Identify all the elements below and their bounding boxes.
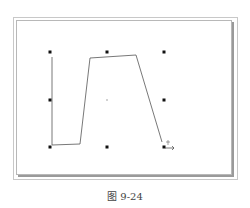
move-cursor-icon <box>165 140 174 150</box>
resize-handle[interactable] <box>106 51 109 54</box>
resize-handle[interactable] <box>49 51 52 54</box>
figure-caption: 图 9-24 <box>0 188 250 203</box>
resize-handle[interactable] <box>49 99 52 102</box>
resize-handle[interactable] <box>163 51 166 54</box>
center-point <box>106 99 108 101</box>
resize-handle[interactable] <box>49 146 52 149</box>
resize-handle[interactable] <box>163 99 166 102</box>
resize-handle[interactable] <box>106 146 109 149</box>
drawing-svg[interactable] <box>0 0 250 208</box>
